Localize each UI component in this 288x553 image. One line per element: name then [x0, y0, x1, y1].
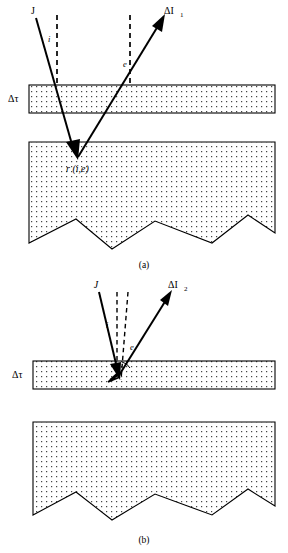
panel-a-scatter-label: r (i,e)	[66, 163, 89, 175]
panel-a-surface-block	[29, 142, 275, 249]
panel-a-caption: (a)	[139, 260, 150, 271]
panel-b-emergence-angle-label: e	[130, 342, 134, 352]
panel-a-surface-block-fill	[29, 142, 275, 249]
panel-a-emergent-subscript: 1	[180, 11, 184, 19]
panel-a-emergence-angle-label: e	[123, 59, 127, 69]
panel-a: J i e ΔI 1 Δτ r (i,e) (a)	[8, 5, 275, 271]
panel-b-surface-block	[33, 422, 275, 520]
panel-b: J i e ΔI 2 Δτ (b)	[12, 279, 275, 546]
panel-a-thin-layer-fill	[29, 85, 275, 113]
panel-a-emergent-arrowhead	[152, 14, 165, 32]
panel-b-thin-layer-fill	[33, 361, 275, 389]
panel-a-incident-label: J	[31, 5, 35, 16]
panel-b-surface-block-fill	[33, 422, 275, 520]
panel-b-emergent-label: ΔI	[168, 279, 178, 290]
panel-a-layer-label: Δτ	[8, 93, 18, 104]
panel-b-incident-label: J	[94, 279, 99, 290]
panel-a-emergent-label-group: ΔI 1	[164, 5, 184, 19]
panel-a-emergent-label: ΔI	[164, 5, 174, 16]
panel-a-incidence-angle-label: i	[48, 34, 51, 44]
panel-a-incident-ray	[36, 18, 73, 148]
panel-a-thin-layer	[29, 85, 275, 113]
panel-b-caption: (b)	[138, 535, 149, 546]
panel-b-layer-label: Δτ	[12, 369, 22, 380]
panel-b-emergent-subscript: 2	[184, 285, 188, 293]
figure-root: J i e ΔI 1 Δτ r (i,e) (a)	[0, 0, 288, 553]
panel-b-incident-ray	[99, 292, 117, 368]
panel-b-emergent-arrowhead	[160, 290, 172, 306]
radiative-transfer-diagram: J i e ΔI 1 Δτ r (i,e) (a)	[0, 0, 288, 553]
panel-b-thin-layer	[33, 361, 275, 389]
